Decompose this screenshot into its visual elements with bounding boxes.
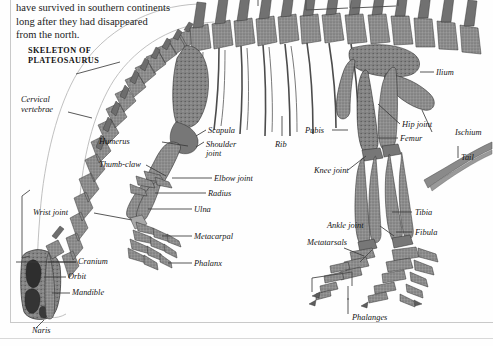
label-metacarpal: Metacarpal — [194, 232, 233, 242]
label-phalanges: Phalanges — [352, 313, 387, 323]
body-line-2: long after they had disappeared — [16, 15, 226, 29]
label-tibia: Tibia — [415, 208, 432, 218]
label-femur: Femur — [400, 134, 422, 144]
label-ischium: Ischium — [455, 128, 482, 138]
book-page: have survived in southern continents lon… — [0, 0, 493, 346]
page-edge-rule — [0, 338, 493, 339]
label-phalanx: Phalanx — [194, 259, 222, 269]
label-orbit: Orbit — [68, 272, 86, 282]
label-cranium: Cranium — [78, 257, 108, 267]
page-frame-bottom — [10, 322, 493, 323]
label-pubis: Pubis — [305, 126, 324, 136]
label-metatarsals: Metatarsals — [307, 238, 347, 248]
label-mandible: Mandible — [72, 288, 104, 298]
body-paragraph: have survived in southern continents lon… — [16, 1, 226, 42]
label-tail: Tail — [461, 153, 474, 163]
label-cervical-vertebrae: Cervical vertebrae — [21, 95, 53, 114]
label-wrist-joint: Wrist joint — [33, 208, 68, 218]
label-knee-joint: Knee joint — [314, 166, 349, 176]
label-shoulder-joint: Shoulder joint — [206, 140, 258, 159]
label-ulna: Ulna — [194, 205, 211, 215]
label-ankle-joint: Ankle joint — [327, 221, 364, 231]
figure-title: SKELETON OF PLATEOSAURUS — [28, 46, 99, 67]
label-ilium: Ilium — [436, 68, 454, 78]
label-humerus: Humerus — [99, 137, 130, 147]
tail-bones — [424, 142, 492, 191]
figure-title-line-2: PLATEOSAURUS — [28, 56, 99, 66]
label-radius: Radius — [208, 189, 231, 199]
label-thumb-claw: Thumb-claw — [99, 160, 141, 170]
label-scapula: Scapula — [208, 126, 235, 136]
body-line-1: have survived in southern continents — [16, 1, 226, 15]
label-fibula: Fibula — [415, 228, 437, 238]
label-rib: Rib — [275, 140, 287, 150]
body-line-3: from the north. — [16, 28, 226, 42]
label-elbow-joint: Elbow joint — [214, 174, 253, 184]
label-naris: Naris — [32, 326, 51, 336]
skull-bones — [21, 226, 64, 319]
figure-title-line-1: SKELETON OF — [28, 46, 99, 56]
label-hip-joint: Hip joint — [402, 120, 432, 130]
page-frame-left — [10, 0, 11, 322]
hindlimb-and-pelvis-bones — [309, 45, 438, 308]
